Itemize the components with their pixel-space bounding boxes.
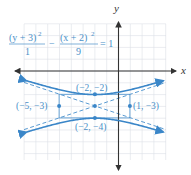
center-dot: [93, 104, 97, 108]
vertex-upper-label: (−2, −2): [76, 83, 107, 94]
co-vertex-right-label: (1, −3): [133, 101, 159, 112]
vertex-lower-dot: [93, 116, 97, 120]
equation-operator: −: [49, 38, 55, 49]
co-vertex-left-label: (−5, −3): [16, 101, 47, 112]
y-axis-label: y: [113, 2, 119, 14]
equation-rhs: = 1: [100, 38, 113, 49]
equation-term2-exponent: 2: [91, 30, 95, 38]
co-vertex-right-dot: [128, 104, 132, 108]
x-axis-label: x: [180, 64, 186, 76]
equation-term2-numerator: (x + 2): [60, 32, 87, 44]
equation-term1-numerator: (y + 3): [9, 32, 36, 44]
co-vertex-left-dot: [57, 104, 61, 108]
hyperbola-graph: x y (y + 3) 2 1 − (x + 2) 2 9 = 1 (−2, −…: [0, 0, 191, 175]
equation-term1-exponent: 2: [38, 30, 42, 38]
equation: (y + 3) 2 1 − (x + 2) 2 9 = 1: [9, 30, 113, 57]
equation-term1-denominator: 1: [25, 46, 30, 57]
equation-term2-denominator: 9: [76, 46, 81, 57]
vertex-lower-label: (−2, −4): [75, 122, 106, 133]
